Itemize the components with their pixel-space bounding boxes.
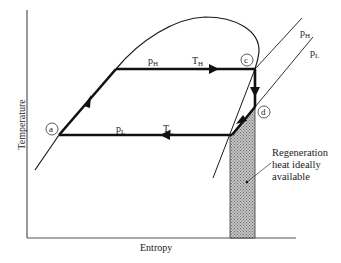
x-axis-label: Entropy [140,242,172,253]
state-c-label: c [244,55,248,65]
arrow-boil-icon [209,64,219,74]
state-d-label: d [261,107,266,117]
label-T-low: TL [163,124,173,137]
annotation-line-1: Regeneration [272,147,328,159]
annotation-line-2: heat ideally [272,159,328,171]
arrow-pump-icon [84,95,91,108]
y-axis-label: Temperature [16,90,27,160]
regeneration-heat-area [230,107,255,238]
liquid-line [35,135,59,170]
regeneration-annotation: Regeneration heat ideally available [272,147,328,183]
arrow-expand-icon [250,87,260,97]
saturation-dome [116,17,259,69]
isobar-high-label: pH [300,28,310,41]
label-p-high: pH [148,56,158,69]
isobar-high [255,18,302,69]
label-p-low: pL [116,124,125,137]
isobar-low [255,37,313,107]
annotation-line-3: available [272,171,328,183]
state-a-label: a [49,124,53,134]
label-T-high: TH [192,56,203,69]
isobar-low-label: pL [310,48,319,61]
annotation-dot [246,181,249,184]
